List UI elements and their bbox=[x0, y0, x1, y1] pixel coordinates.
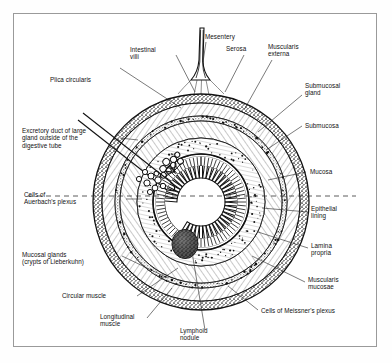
auerbach-cell-dot bbox=[231, 279, 232, 280]
plexus-cell-dot bbox=[142, 191, 143, 192]
plexus-cell-dot bbox=[161, 246, 162, 247]
plexus-cell-dot bbox=[187, 150, 189, 152]
auerbach-cell-dot bbox=[115, 189, 117, 191]
plexus-cell-dot bbox=[252, 203, 253, 204]
plexus-cell-dot bbox=[149, 216, 151, 218]
auerbach-cell-dot bbox=[217, 283, 218, 284]
plexus-cell-dot bbox=[209, 144, 210, 145]
auerbach-cell-dot bbox=[266, 151, 269, 154]
label-intestinal-villi: Intestinal villi bbox=[130, 46, 156, 61]
auerbach-cell-dot bbox=[226, 282, 228, 284]
label-meissners-plexus: Cells of Meissner's plexus bbox=[261, 307, 335, 314]
auerbach-cell-dot bbox=[275, 244, 276, 245]
auerbach-cell-dot bbox=[254, 135, 255, 136]
plexus-cell-dot bbox=[224, 249, 225, 250]
auerbach-cell-dot bbox=[179, 120, 182, 123]
plexus-cell-dot bbox=[250, 196, 251, 197]
plexus-cell-dot bbox=[151, 216, 153, 218]
auerbach-cell-dot bbox=[121, 173, 123, 175]
plexus-cell-dot bbox=[205, 145, 207, 147]
plexus-cell-dot bbox=[207, 148, 209, 150]
label-circular-muscle: Circular muscle bbox=[62, 292, 106, 299]
plexus-cell-dot bbox=[139, 205, 141, 207]
lymphoid-nodule bbox=[172, 230, 198, 259]
villus bbox=[225, 198, 237, 202]
plexus-cell-dot bbox=[154, 224, 155, 225]
auerbach-cell-dot bbox=[243, 131, 244, 132]
auerbach-cell-dot bbox=[209, 117, 211, 119]
plexus-cell-dot bbox=[239, 238, 240, 239]
plexus-cell-dot bbox=[149, 234, 150, 235]
auerbach-cell-dot bbox=[170, 121, 172, 123]
label-submucosal-gland: Submucosal gland bbox=[305, 82, 340, 97]
plexus-cell-dot bbox=[241, 155, 243, 157]
auerbach-cell-dot bbox=[257, 138, 258, 139]
plexus-cell-dot bbox=[211, 257, 213, 259]
auerbach-cell-dot bbox=[277, 231, 278, 232]
label-mucosa: Mucosa bbox=[310, 168, 332, 175]
plexus-cell-dot bbox=[146, 199, 147, 200]
plexus-cell-dot bbox=[239, 235, 241, 237]
auerbach-cell-dot bbox=[249, 270, 251, 272]
auerbach-cell-dot bbox=[261, 146, 263, 148]
plexus-cell-dot bbox=[205, 253, 207, 255]
plexus-cell-dot bbox=[151, 235, 153, 237]
auerbach-cell-dot bbox=[171, 279, 174, 282]
plexus-cell-dot bbox=[156, 243, 157, 244]
label-longitudinal-muscle: Longitudinal muscle bbox=[100, 313, 135, 328]
auerbach-cell-dot bbox=[225, 121, 227, 123]
plexus-cell-dot bbox=[155, 230, 157, 232]
label-submucosa: Submucosa bbox=[305, 122, 339, 129]
auerbach-cell-dot bbox=[182, 121, 184, 123]
plexus-cell-dot bbox=[244, 158, 246, 160]
plexus-cell-dot bbox=[258, 184, 260, 186]
plexus-cell-dot bbox=[242, 238, 243, 239]
plexus-cell-dot bbox=[153, 241, 155, 243]
plexus-cell-dot bbox=[148, 210, 150, 212]
auerbach-cell-dot bbox=[212, 118, 214, 120]
auerbach-cell-dot bbox=[152, 130, 154, 132]
auerbach-cell-dot bbox=[201, 115, 203, 117]
label-plica-circularis: Plica circularis bbox=[50, 76, 91, 83]
plexus-cell-dot bbox=[195, 260, 196, 261]
plexus-cell-dot bbox=[260, 215, 261, 216]
auerbach-cell-dot bbox=[273, 242, 274, 243]
auerbach-cell-dot bbox=[187, 118, 189, 120]
villus bbox=[199, 166, 202, 178]
plexus-cell-dot bbox=[249, 189, 250, 190]
plexus-cell-dot bbox=[231, 256, 232, 257]
auerbach-cell-dot bbox=[185, 284, 186, 285]
auerbach-cell-dot bbox=[241, 277, 243, 279]
plexus-cell-dot bbox=[193, 148, 194, 149]
auerbach-cell-dot bbox=[275, 239, 277, 241]
plexus-cell-dot bbox=[244, 242, 246, 244]
plexus-cell-dot bbox=[217, 254, 219, 256]
plexus-cell-dot bbox=[242, 162, 243, 163]
plexus-cell-dot bbox=[256, 201, 257, 202]
plexus-cell-dot bbox=[247, 183, 248, 184]
label-lamina-propria: Lamina propria bbox=[311, 242, 332, 257]
auerbach-cell-dot bbox=[206, 116, 209, 119]
plexus-cell-dot bbox=[184, 142, 185, 143]
auerbach-cell-dot bbox=[280, 173, 282, 175]
auerbach-cell-dot bbox=[159, 275, 161, 277]
label-epithelial-lining: Epithelial lining bbox=[311, 205, 337, 220]
auerbach-cell-dot bbox=[284, 194, 285, 195]
auerbach-cell-dot bbox=[175, 283, 177, 285]
auerbach-cell-dot bbox=[150, 134, 152, 136]
plexus-cell-dot bbox=[231, 243, 232, 244]
plexus-cell-dot bbox=[247, 230, 249, 232]
plexus-cell-dot bbox=[232, 254, 233, 255]
plexus-cell-dot bbox=[219, 154, 220, 155]
plexus-cell-dot bbox=[188, 145, 190, 147]
auerbach-cell-dot bbox=[137, 257, 138, 258]
plexus-cell-dot bbox=[157, 161, 158, 162]
plexus-cell-dot bbox=[229, 249, 231, 251]
auerbach-cell-dot bbox=[191, 286, 193, 288]
auerbach-cell-dot bbox=[166, 123, 167, 124]
plexus-cell-dot bbox=[224, 157, 226, 159]
auerbach-cell-dot bbox=[208, 117, 209, 118]
label-mesentery: Mesentery bbox=[205, 33, 235, 40]
auerbach-cell-dot bbox=[136, 146, 138, 148]
plexus-cell-dot bbox=[205, 256, 207, 258]
